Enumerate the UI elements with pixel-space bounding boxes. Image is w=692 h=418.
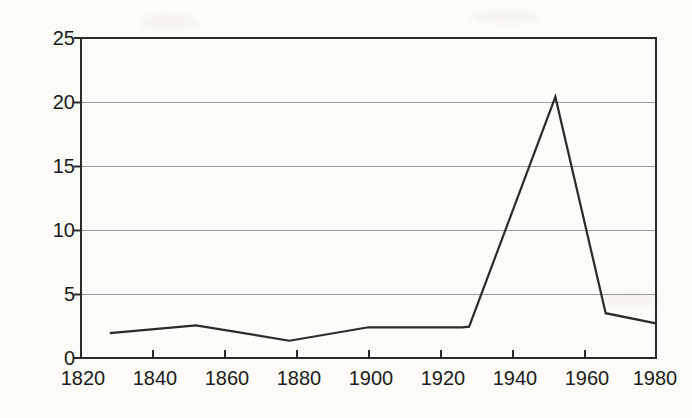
y-tick-marks bbox=[74, 38, 81, 358]
chart-figure: Quecksilber (µg/g) 25 20 15 10 5 0 1820 … bbox=[0, 0, 692, 418]
axis-frame bbox=[80, 37, 657, 359]
plot-area bbox=[0, 0, 692, 418]
x-tick-marks bbox=[81, 350, 656, 358]
data-series-quecksilber bbox=[110, 97, 656, 341]
gridlines bbox=[81, 103, 656, 295]
